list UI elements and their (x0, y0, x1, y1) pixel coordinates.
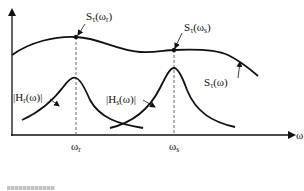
leader-h-r (50, 99, 59, 106)
label-s-ws: Sτ(ωs) (184, 21, 211, 35)
x-axis-label: ω (296, 129, 303, 141)
point-s-ws (172, 48, 176, 52)
leader-spectrum (238, 62, 240, 78)
tick-label-wr: ωr (71, 140, 81, 154)
tick-label-ws: ωs (169, 140, 179, 154)
cropped-caption (7, 186, 55, 190)
spectrum-curve (12, 37, 258, 76)
label-h-s: |Hs(ω)| (106, 93, 136, 107)
label-h-r: |Hr(ω)| (13, 91, 42, 105)
leader-s-ws (175, 33, 182, 48)
label-s-wr: Sτ(ωr) (86, 10, 113, 24)
resonance-diagram: ω Sτ(ωr) Sτ(ωs) Sτ(ω) |Hr(ω)| |Hs(ω)| ωr… (0, 0, 304, 191)
leader-s-wr (78, 24, 85, 35)
label-spectrum: Sτ(ω) (204, 76, 228, 90)
point-s-wr (74, 35, 78, 39)
